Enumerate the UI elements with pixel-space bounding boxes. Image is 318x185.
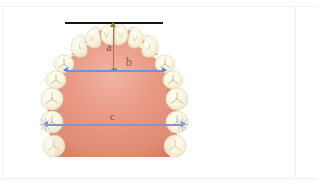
dental-arch-illustration [0, 0, 318, 185]
figure-frame: a b c [0, 0, 318, 185]
tooth-lateral-incisor-right [128, 27, 143, 48]
